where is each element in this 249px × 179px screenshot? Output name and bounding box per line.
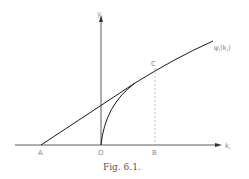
point-label-c: C: [151, 60, 156, 68]
point-label-o: O: [98, 149, 104, 157]
curve-label: ψi(ki): [214, 44, 231, 53]
production-curve: [101, 83, 135, 145]
x-axis-arrow-icon: [215, 143, 222, 147]
point-label-a: A: [38, 149, 43, 157]
x-axis-label: ki: [225, 142, 230, 151]
y-axis-label: yi: [97, 10, 102, 19]
figure-6-1: A O B C yi ki ψi(ki) Fig. 6.1.: [0, 0, 249, 179]
point-label-b: B: [152, 149, 157, 157]
figure-caption: Fig. 6.1.: [103, 162, 141, 172]
psi-curve: [41, 41, 213, 145]
